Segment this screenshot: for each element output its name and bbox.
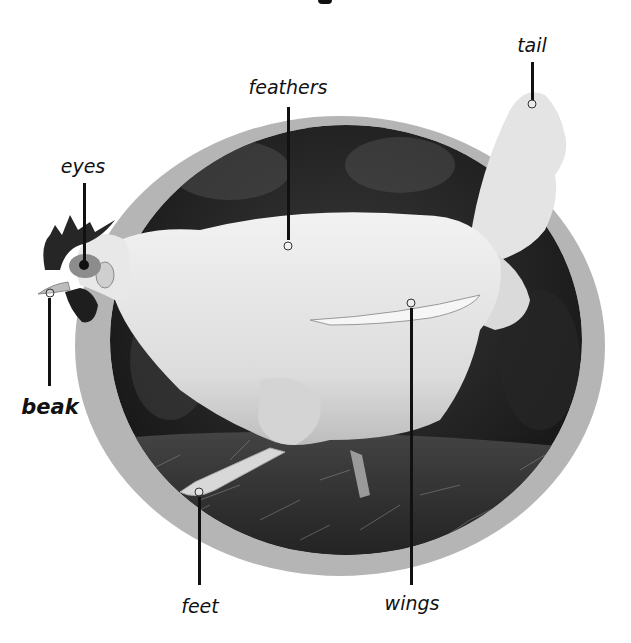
leader-line-feet bbox=[198, 497, 201, 585]
leader-line-beak bbox=[48, 298, 51, 386]
label-feathers: feathers bbox=[249, 78, 328, 97]
label-eyes: eyes bbox=[61, 157, 106, 176]
leader-line-feathers bbox=[287, 107, 290, 240]
callout-dot-wings bbox=[407, 299, 416, 308]
callout-dot-beak bbox=[46, 289, 55, 298]
chicken-diagram: tail feathers eyes beak feet wings bbox=[0, 0, 631, 643]
label-beak: beak bbox=[21, 397, 78, 418]
callout-dot-feet bbox=[195, 488, 204, 497]
leader-line-tail bbox=[531, 62, 534, 100]
leader-line-eyes bbox=[83, 183, 86, 261]
leader-line-wings bbox=[410, 308, 413, 585]
label-tail: tail bbox=[517, 36, 547, 55]
chicken-eye bbox=[79, 260, 89, 270]
callout-dot-tail bbox=[528, 100, 537, 109]
label-wings: wings bbox=[385, 594, 440, 613]
label-feet: feet bbox=[181, 597, 219, 616]
callout-dot-feathers bbox=[284, 242, 293, 251]
